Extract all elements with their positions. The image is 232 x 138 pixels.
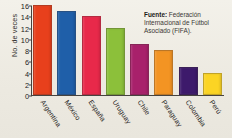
x-axis-labels: ArgentinaMéxicoEspañaUruguayChileParagua… [33, 98, 226, 138]
x-tick-label: México [64, 99, 83, 122]
bar [82, 16, 101, 95]
x-label-slot: Argentina [36, 98, 55, 138]
bar-chart: No. de veces 0246810121416 ArgentinaMéxi… [0, 0, 232, 138]
x-label-slot: Colombia [180, 98, 199, 138]
x-tick-label: Uruguay [112, 99, 133, 125]
y-tick-mark [29, 96, 32, 97]
y-tick-mark [29, 17, 32, 18]
x-label-slot: Perú [204, 98, 223, 138]
bar-slot [57, 6, 76, 95]
y-tick-mark [29, 28, 32, 29]
bar-slot [106, 6, 125, 95]
x-axis-line [31, 95, 224, 96]
y-tick-mark [29, 84, 32, 85]
x-label-slot: Paraguay [156, 98, 175, 138]
source-note: Fuente: Federación Internacional de Fútb… [144, 11, 232, 35]
bar-slot [33, 6, 52, 95]
x-tick-label: España [88, 99, 107, 123]
bar [203, 73, 222, 96]
x-label-slot: España [84, 98, 103, 138]
x-label-slot: México [60, 98, 79, 138]
y-tick-mark [29, 6, 32, 7]
y-tick-mark [29, 51, 32, 52]
source-line-3: Asociado (FIFA). [144, 27, 192, 34]
x-tick-label: Chile [136, 99, 151, 117]
bar [57, 11, 76, 95]
source-line-1: Federación [167, 11, 201, 18]
y-tick-mark [29, 39, 32, 40]
y-tick-mark [29, 73, 32, 74]
bar-slot [82, 6, 101, 95]
x-label-slot: Uruguay [108, 98, 127, 138]
y-tick-mark [29, 62, 32, 63]
bar [33, 5, 52, 95]
source-line-2: Internacional de Fútbol [144, 19, 209, 26]
y-axis-title: No. de veces [10, 2, 19, 70]
bar [130, 44, 149, 95]
source-label: Fuente: [144, 11, 167, 18]
bar [179, 67, 198, 95]
x-label-slot: Chile [132, 98, 151, 138]
bar [154, 50, 173, 95]
x-tick-label: Perú [208, 99, 222, 116]
bar [106, 28, 125, 96]
